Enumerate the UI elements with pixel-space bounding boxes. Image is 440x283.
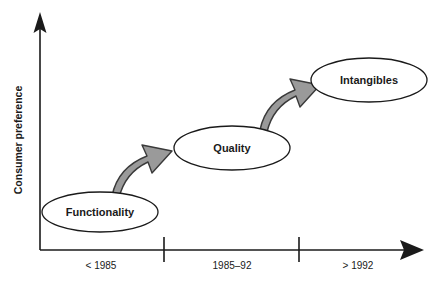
node-intangibles-label: Intangibles: [340, 74, 398, 86]
x-tick-label-3: > 1992: [343, 260, 374, 271]
node-quality[interactable]: Quality: [174, 126, 290, 170]
node-intangibles[interactable]: Intangibles: [311, 58, 427, 102]
y-axis-label: Consumer preference: [12, 86, 24, 195]
curved-arrow-icon-two: [260, 79, 320, 132]
node-functionality-label: Functionality: [66, 206, 135, 218]
node-quality-label: Quality: [213, 142, 251, 154]
diagram-canvas: Consumer preference < 1985 1985–92 > 199…: [0, 0, 440, 283]
x-tick-label-1: < 1985: [86, 260, 117, 271]
x-axis: [40, 237, 424, 262]
node-functionality[interactable]: Functionality: [42, 192, 158, 232]
x-tick-label-2: 1985–92: [213, 260, 252, 271]
curved-arrow-icon-one: [112, 145, 172, 198]
